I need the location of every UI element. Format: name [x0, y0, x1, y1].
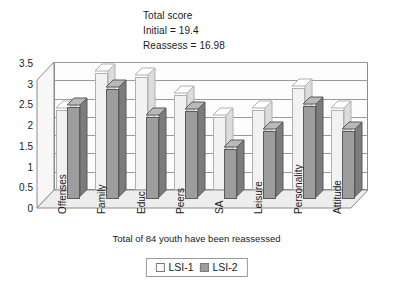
y-axis-tick-label: 1: [27, 161, 33, 172]
x-axis-category-label: Leisure: [253, 181, 264, 214]
bar: [342, 131, 355, 199]
legend-swatch-icon: [155, 263, 164, 272]
bar-3d-shading: [106, 80, 128, 199]
initial-score-label: Initial = 19.4: [143, 23, 225, 38]
chart-title-block: Total score Initial = 19.4 Reassess = 16…: [143, 8, 225, 53]
bar-3d-shading: [185, 102, 207, 199]
legend-item-lsi-1: LSI-1: [155, 261, 193, 273]
y-axis-tick-label: 1.5: [19, 140, 33, 151]
y-axis-tick-label: 0: [27, 203, 33, 214]
x-axis-category-label: Attitude: [332, 180, 343, 214]
chart-container: Total score Initial = 19.4 Reassess = 16…: [0, 0, 393, 287]
bar-3d-shading: [263, 122, 285, 199]
chart-caption: Total of 84 youth have been reassessed: [0, 233, 393, 244]
plot-area: 00.511.522.533.5: [37, 62, 377, 202]
legend-label: LSI-1: [168, 261, 193, 273]
legend-swatch-icon: [200, 263, 209, 272]
bar: [106, 89, 119, 199]
bar-3d-shading: [146, 108, 168, 199]
y-axis-tick-label: 0.5: [19, 182, 33, 193]
y-axis-tick-label: 3: [27, 78, 33, 89]
chart-legend: LSI-1 LSI-2: [145, 258, 247, 277]
x-axis-category-label: SA: [214, 201, 225, 214]
x-axis-category-label: Personality: [293, 165, 304, 214]
bar-3d-shading: [342, 122, 364, 199]
x-axis-category-label: Offenses: [57, 174, 68, 214]
x-axis-category-label: Peers: [175, 188, 186, 214]
reassess-score-label: Reassess = 16.98: [143, 38, 225, 53]
bar: [263, 131, 276, 199]
bar-3d-shading: [303, 97, 325, 199]
bar: [146, 117, 159, 199]
y-axis-tick-label: 2.5: [19, 99, 33, 110]
bar-3d-shading: [224, 140, 246, 198]
bar-3d-shading: [67, 98, 89, 198]
chart-title: Total score: [143, 8, 225, 23]
bar: [67, 107, 80, 198]
bar: [185, 111, 198, 199]
y-axis-tick-label: 2: [27, 120, 33, 131]
x-axis-category-label: Educ: [136, 191, 147, 214]
legend-item-lsi-2: LSI-2: [200, 261, 238, 273]
y-axis-tick-label: 3.5: [19, 58, 33, 69]
legend-label: LSI-2: [213, 261, 238, 273]
x-axis-category-label: Family: [96, 185, 107, 214]
bar: [224, 149, 237, 198]
bar-series-group: [37, 62, 377, 202]
bar: [303, 106, 316, 199]
